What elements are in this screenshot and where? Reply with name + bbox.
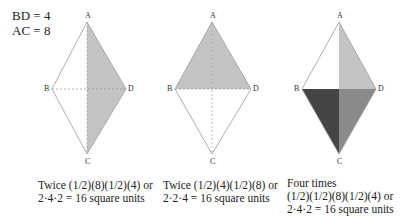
caption-figure-3: Four times (1/2)(1/2)(8)(1/2)(4) or 2·4·… [287, 177, 394, 216]
shaded-top-half [175, 22, 251, 89]
caption-line: 2·4·2 = 16 square units [287, 203, 394, 216]
vertex-d-label: D [378, 84, 384, 93]
vertex-b-label: B [294, 84, 299, 93]
caption-line: 2·4·2 = 16 square units [38, 192, 153, 205]
caption-line: 2·2·4 = 16 square units [163, 192, 278, 205]
caption-line: Four times [287, 177, 394, 190]
shaded-right-half [87, 22, 126, 154]
rhombus-figure-2: A B D C [167, 11, 259, 166]
caption-figure-2: Twice (1/2)(4)(1/2)(8) or 2·2·4 = 16 squ… [163, 179, 278, 205]
caption-line: Twice (1/2)(4)(1/2)(8) or [163, 179, 278, 192]
vertex-a-label: A [337, 11, 343, 20]
rhombus-figure-1: A B D C [44, 11, 134, 166]
vertex-c-label: C [210, 157, 215, 166]
caption-figure-1: Twice (1/2)(8)(1/2)(4) or 2·4·2 = 16 squ… [38, 179, 153, 205]
vertex-c-label: C [85, 157, 90, 166]
vertex-b-label: B [44, 84, 49, 93]
caption-line: (1/2)(1/2)(8)(1/2)(4) or [287, 190, 394, 203]
vertex-d-label: D [128, 84, 134, 93]
caption-line: Twice (1/2)(8)(1/2)(4) or [38, 179, 153, 192]
vertex-c-label: C [337, 157, 342, 166]
rhombus-figure-3: A B D C [294, 11, 384, 166]
vertex-b-label: B [167, 84, 172, 93]
vertex-d-label: D [253, 84, 259, 93]
vertex-a-label: A [210, 11, 216, 20]
vertex-a-label: A [85, 11, 91, 20]
